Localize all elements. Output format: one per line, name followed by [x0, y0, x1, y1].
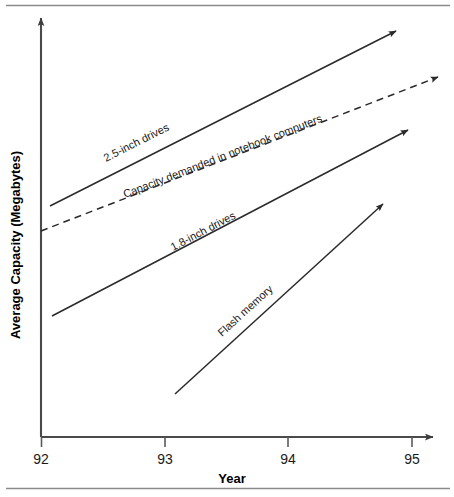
series-line-2-5-inch-drives	[50, 31, 396, 206]
series-label-2-5-inch-drives: 2.5-inch drives	[101, 121, 171, 164]
chart-figure: 92 93 94 95 Year Average Capacity (Megab…	[0, 0, 454, 497]
x-tick-label-1: 93	[157, 451, 173, 467]
x-tick-label-0: 92	[33, 451, 49, 467]
x-tick-label-2: 94	[280, 451, 296, 467]
x-axis-title: Year	[218, 471, 245, 486]
series-label-capacity-demanded: Capacity demanded in notebook computers	[121, 112, 324, 200]
x-tick-label-3: 95	[404, 451, 420, 467]
series-label-1-8-inch-drives: 1.8-inch drives	[168, 209, 237, 253]
line-chart-canvas: 92 93 94 95 Year Average Capacity (Megab…	[0, 0, 454, 497]
y-axis-title: Average Capacity (Megabytes)	[8, 151, 23, 339]
